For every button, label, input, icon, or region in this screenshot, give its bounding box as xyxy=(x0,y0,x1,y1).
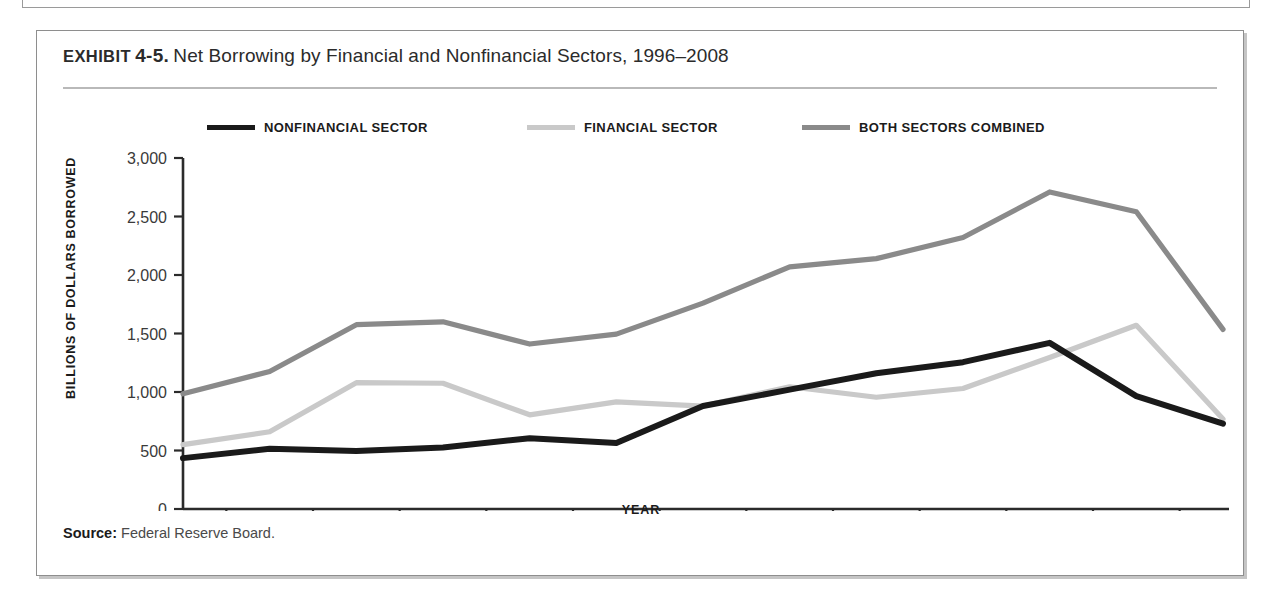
source-note: Source: Federal Reserve Board. xyxy=(63,525,275,541)
exhibit-container: EXHIBIT 4-5. Net Borrowing by Financial … xyxy=(36,30,1244,576)
y-tick-label: 2,000 xyxy=(127,267,167,284)
line-chart-plot: 05001,0001,5002,0002,5003,00019961997199… xyxy=(37,91,1245,511)
title-divider xyxy=(63,87,1217,89)
exhibit-kicker: EXHIBIT xyxy=(63,47,131,65)
y-tick-label: 1,500 xyxy=(127,326,167,343)
exhibit-title: Net Borrowing by Financial and Nonfinanc… xyxy=(173,45,728,66)
series-line-both-sectors-combined xyxy=(183,192,1223,394)
y-tick-label: 3,000 xyxy=(127,150,167,167)
y-tick-label: 500 xyxy=(140,443,167,460)
source-label: Source: xyxy=(63,525,117,541)
y-tick-label: 2,500 xyxy=(127,209,167,226)
exhibit-number: 4-5. xyxy=(135,45,169,66)
x-axis-title: YEAR xyxy=(37,503,1245,517)
page-top-box-fragment xyxy=(22,0,1250,8)
source-text: Federal Reserve Board. xyxy=(121,525,275,541)
exhibit-title-row: EXHIBIT 4-5. Net Borrowing by Financial … xyxy=(63,45,1217,79)
y-tick-label: 1,000 xyxy=(127,384,167,401)
series-line-nonfinancial-sector xyxy=(183,343,1223,458)
chart-area: NONFINANCIAL SECTOR FINANCIAL SECTOR BOT… xyxy=(37,91,1245,521)
series-line-financial-sector xyxy=(183,325,1223,444)
